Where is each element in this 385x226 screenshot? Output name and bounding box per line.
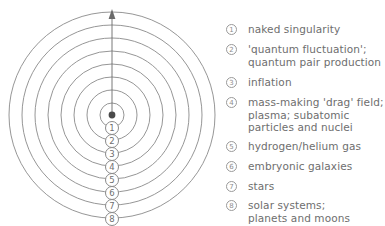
legend-marker-2: 2 bbox=[226, 44, 237, 55]
legend-marker-6: 6 bbox=[226, 161, 237, 172]
center-singularity-dot bbox=[109, 112, 116, 119]
ring-label-3: 3 bbox=[105, 147, 119, 161]
legend-item-4: 4 mass-making 'drag' field; plasma; suba… bbox=[226, 96, 384, 134]
legend-item-5: 5 hydrogen/helium gas bbox=[226, 140, 361, 153]
legend-item-7: 7 stars bbox=[226, 180, 274, 193]
legend-marker-4: 4 bbox=[226, 97, 237, 108]
legend-item-3: 3 inflation bbox=[226, 76, 292, 89]
legend-label-8: solar systems; planets and moons bbox=[248, 199, 350, 224]
ring-label-2: 2 bbox=[105, 134, 119, 148]
legend-item-1: 1 naked singularity bbox=[226, 23, 340, 36]
concentric-rings-diagram: 1 2 3 4 5 6 7 8 bbox=[0, 0, 226, 226]
legend-item-2: 2 'quantum fluctuation'; quantum pair pr… bbox=[226, 43, 381, 68]
ring-label-5: 5 bbox=[105, 173, 119, 187]
ring-label-1: 1 bbox=[105, 121, 119, 135]
legend-label-3: inflation bbox=[248, 76, 292, 89]
legend-label-2: 'quantum fluctuation'; quantum pair prod… bbox=[248, 43, 381, 68]
legend-marker-7: 7 bbox=[226, 181, 237, 192]
legend-marker-1: 1 bbox=[226, 24, 237, 35]
diagram-page: 1 2 3 4 5 6 7 8 1 naked singularity 2 'q… bbox=[0, 0, 385, 226]
time-axis-arrow-head bbox=[109, 9, 116, 19]
ring-label-7: 7 bbox=[105, 199, 119, 213]
legend-marker-3: 3 bbox=[226, 77, 237, 88]
legend-label-4: mass-making 'drag' field; plasma; subato… bbox=[248, 96, 384, 134]
ring-label-6: 6 bbox=[105, 186, 119, 200]
legend-marker-8: 8 bbox=[226, 200, 237, 211]
legend-label-5: hydrogen/helium gas bbox=[248, 140, 361, 153]
legend-label-1: naked singularity bbox=[248, 23, 340, 36]
legend-item-8: 8 solar systems; planets and moons bbox=[226, 199, 350, 224]
legend-label-6: embryonic galaxies bbox=[248, 160, 352, 173]
ring-label-4: 4 bbox=[105, 160, 119, 174]
legend-item-6: 6 embryonic galaxies bbox=[226, 160, 352, 173]
legend: 1 naked singularity 2 'quantum fluctuati… bbox=[226, 0, 385, 226]
legend-label-7: stars bbox=[248, 180, 274, 193]
ring-label-8: 8 bbox=[105, 212, 119, 226]
legend-marker-5: 5 bbox=[226, 141, 237, 152]
